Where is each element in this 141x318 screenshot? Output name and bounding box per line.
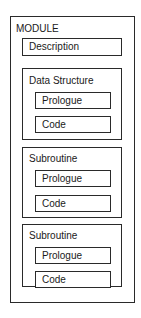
prologue-label: Prologue [42, 250, 82, 261]
code-label: Code [42, 119, 66, 130]
subroutine-2-prologue-box: Prologue [35, 247, 111, 264]
prologue-label: Prologue [42, 173, 82, 184]
data-structure-title: Data Structure [29, 75, 93, 86]
module-title: MODULE [16, 23, 59, 34]
code-label: Code [42, 274, 66, 285]
data-structure-code-box: Code [35, 116, 111, 133]
subroutine-2-code-box: Code [35, 271, 111, 288]
description-box: Description [22, 38, 122, 56]
subroutine-1-prologue-box: Prologue [35, 170, 111, 187]
data-structure-prologue-box: Prologue [35, 92, 111, 109]
subroutine-1-title: Subroutine [29, 153, 77, 164]
code-label: Code [42, 198, 66, 209]
prologue-label: Prologue [42, 95, 82, 106]
description-label: Description [29, 41, 79, 52]
subroutine-2-title: Subroutine [29, 230, 77, 241]
subroutine-1-code-box: Code [35, 195, 111, 212]
